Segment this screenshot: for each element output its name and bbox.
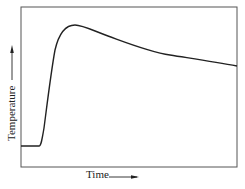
plot-frame [21,7,237,167]
x-axis-label: Time [86,168,109,180]
temperature-time-chart [0,0,245,189]
y-axis-label: Temperature [5,86,17,141]
temperature-curve [21,25,237,146]
y-axis-arrowhead-icon [10,45,14,53]
x-axis-arrowhead-icon [131,175,139,179]
